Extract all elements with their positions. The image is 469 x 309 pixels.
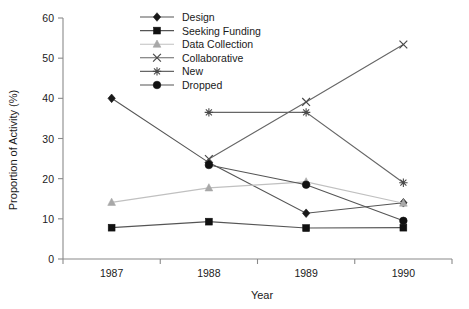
chart-figure: 0102030405060 1987198819891990 DesignSee…	[0, 0, 469, 309]
x-tick-label: 1987	[100, 267, 124, 279]
data-point-marker	[205, 218, 212, 225]
data-point-marker	[205, 161, 213, 169]
asterisk-marker	[302, 108, 310, 116]
asterisk-marker	[153, 67, 161, 75]
data-point-marker	[303, 225, 310, 232]
y-tick-label: 10	[42, 213, 54, 225]
legend-item-collaborative[interactable]: Collaborative	[140, 52, 243, 64]
data-point-marker	[205, 108, 213, 116]
legend-item-label: Collaborative	[182, 52, 243, 64]
data-point-marker	[400, 224, 407, 231]
data-point-marker	[302, 209, 309, 218]
data-point-marker	[302, 108, 310, 116]
data-point-marker	[399, 41, 407, 49]
series-new	[205, 108, 408, 187]
circle-marker	[153, 81, 161, 89]
series-line	[112, 182, 404, 203]
triangle-marker	[153, 40, 161, 47]
legend-item-design[interactable]: Design	[140, 11, 215, 23]
x-tick-label: 1988	[197, 267, 221, 279]
data-point-marker	[302, 181, 310, 189]
x-tick-label: 1990	[392, 267, 416, 279]
circle-marker	[205, 161, 213, 169]
legend-item-dropped[interactable]: Dropped	[140, 79, 222, 91]
legend-item-label: Dropped	[182, 79, 222, 91]
legend-item-label: New	[182, 65, 203, 77]
y-axis: 0102030405060	[42, 12, 63, 265]
y-tick-label: 20	[42, 173, 54, 185]
diamond-marker	[153, 13, 160, 22]
data-point-marker	[400, 217, 408, 225]
y-axis-title: Proportion of Activity (%)	[7, 90, 19, 210]
legend-item-data-collection[interactable]: Data Collection	[140, 38, 253, 50]
y-tick-label: 60	[42, 12, 54, 24]
y-tick-label: 40	[42, 92, 54, 104]
data-point-marker	[399, 178, 407, 186]
data-point-marker	[154, 27, 161, 34]
data-point-marker	[153, 40, 161, 47]
legend-item-new[interactable]: New	[140, 65, 203, 77]
data-point-marker	[153, 81, 161, 89]
square-marker	[205, 218, 212, 225]
x-tick-label: 1989	[294, 267, 318, 279]
asterisk-marker	[399, 178, 407, 186]
y-tick-label: 50	[42, 52, 54, 64]
data-point-marker	[108, 224, 115, 231]
circle-marker	[400, 217, 408, 225]
circle-marker	[302, 181, 310, 189]
line-chart: 0102030405060 1987198819891990 DesignSee…	[0, 0, 469, 309]
diamond-marker	[302, 209, 309, 218]
cross-marker	[302, 98, 310, 106]
data-point-marker	[302, 98, 310, 106]
series-line	[209, 112, 404, 182]
series-seeking-funding	[108, 218, 407, 231]
data-point-marker	[153, 67, 161, 75]
legend-item-label: Design	[182, 11, 215, 23]
series-data-collection	[108, 178, 407, 207]
chart-legend: DesignSeeking FundingData CollectionColl…	[140, 11, 261, 91]
diamond-marker	[108, 94, 115, 103]
y-tick-label: 30	[42, 133, 54, 145]
x-axis: 1987198819891990	[63, 259, 452, 279]
square-marker	[108, 224, 115, 231]
legend-item-label: Seeking Funding	[182, 25, 261, 37]
cross-marker	[399, 41, 407, 49]
x-axis-title: Year	[251, 289, 274, 301]
legend-item-seeking-funding[interactable]: Seeking Funding	[140, 25, 261, 37]
chart-series-layer	[108, 41, 408, 232]
asterisk-marker	[205, 108, 213, 116]
legend-item-label: Data Collection	[182, 38, 253, 50]
y-tick-label: 0	[48, 253, 54, 265]
square-marker	[400, 224, 407, 231]
data-point-marker	[153, 13, 160, 22]
square-marker	[154, 27, 161, 34]
series-line	[112, 222, 404, 228]
data-point-marker	[108, 94, 115, 103]
square-marker	[303, 225, 310, 232]
